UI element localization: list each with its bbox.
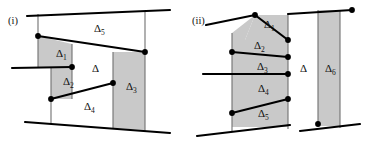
label-delta-main: Δ bbox=[300, 62, 307, 74]
vertex-c bbox=[285, 37, 291, 43]
panel-i-group: Δ1Δ2Δ3Δ4Δ5Δ (i) bbox=[8, 10, 170, 133]
vertex-h bbox=[229, 110, 235, 116]
label-delta-main: Δ bbox=[92, 62, 99, 74]
label-subscript: 4 bbox=[265, 88, 269, 97]
label-base: Δ bbox=[257, 60, 264, 72]
label-subscript: 5 bbox=[265, 113, 269, 122]
label-subscript: 1 bbox=[271, 24, 275, 33]
vertex-e bbox=[285, 54, 291, 60]
vertex-i bbox=[315, 121, 321, 127]
vertex-d bbox=[229, 49, 235, 55]
vertex-d bbox=[48, 96, 54, 102]
bottom-boundary bbox=[25, 122, 170, 133]
label-base: Δ bbox=[258, 82, 265, 94]
label-base: Δ bbox=[56, 47, 63, 59]
panel-ii-group: Δ1Δ2Δ3Δ4Δ5Δ6Δ (ii) bbox=[192, 7, 360, 136]
label-base: Δ bbox=[300, 62, 307, 74]
label-subscript: 2 bbox=[70, 81, 74, 90]
label-base: Δ bbox=[325, 62, 332, 74]
label-subscript: 2 bbox=[261, 45, 265, 54]
label-delta-4: Δ4 bbox=[84, 100, 95, 115]
delta1-lower-edge bbox=[12, 67, 72, 68]
vertex-e bbox=[110, 80, 116, 86]
label-base: Δ bbox=[94, 22, 101, 34]
vertex-a bbox=[252, 12, 258, 18]
label-subscript: 3 bbox=[264, 66, 268, 75]
label-base: Δ bbox=[264, 18, 271, 30]
label-base: Δ bbox=[84, 100, 91, 112]
label-subscript: 6 bbox=[332, 68, 336, 77]
vertex-b bbox=[142, 49, 148, 55]
label-delta-5: Δ5 bbox=[94, 22, 105, 37]
label-base: Δ bbox=[92, 62, 99, 74]
vertex-f bbox=[285, 71, 291, 77]
vertex-a bbox=[35, 33, 41, 39]
vertex-c bbox=[69, 64, 75, 70]
vertex-g bbox=[285, 96, 291, 102]
figure-root: Δ1Δ2Δ3Δ4Δ5Δ (i) Δ1Δ2Δ3Δ4Δ5Δ6Δ (ii) bbox=[0, 0, 367, 141]
vertex-b bbox=[349, 7, 355, 13]
label-subscript: 1 bbox=[63, 53, 67, 62]
panel-ii-tag: (ii) bbox=[192, 15, 205, 27]
label-subscript: 4 bbox=[91, 106, 95, 115]
label-base: Δ bbox=[258, 107, 265, 119]
label-base: Δ bbox=[63, 75, 70, 87]
label-subscript: 3 bbox=[133, 86, 137, 95]
panel-i-tag: (i) bbox=[8, 15, 18, 27]
top-boundary bbox=[27, 10, 170, 16]
label-subscript: 5 bbox=[101, 28, 105, 37]
diagram-canvas: Δ1Δ2Δ3Δ4Δ5Δ (i) Δ1Δ2Δ3Δ4Δ5Δ6Δ (ii) bbox=[0, 0, 367, 141]
label-base: Δ bbox=[126, 80, 133, 92]
label-base: Δ bbox=[254, 39, 261, 51]
